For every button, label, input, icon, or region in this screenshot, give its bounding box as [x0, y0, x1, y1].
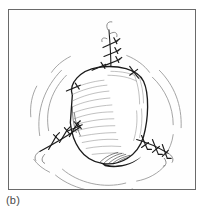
surgical-illustration — [9, 10, 195, 189]
figure-root: (b) — [0, 0, 208, 213]
figure-caption: (b) — [6, 194, 20, 207]
figure-frame-border — [8, 9, 196, 190]
